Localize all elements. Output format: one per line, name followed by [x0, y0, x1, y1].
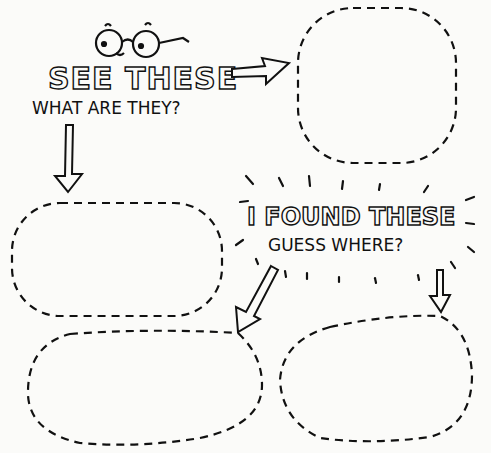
arrow-right-icon [232, 58, 289, 84]
bottom-left-box[interactable] [28, 331, 262, 445]
subheading-what-are-they: WHAT ARE THEY? [32, 98, 181, 118]
top-right-box[interactable] [298, 8, 456, 163]
worksheet-canvas: SEE THESE WHAT ARE THEY? I FOUND THESE G… [0, 0, 491, 453]
bottom-right-box[interactable] [280, 316, 472, 442]
arrow-down-left-icon [236, 266, 278, 332]
middle-left-box[interactable] [12, 203, 222, 316]
heading-see-these: SEE THESE [48, 61, 238, 96]
heading-i-found-these: I FOUND THESE [247, 203, 455, 231]
arrow-down-icon-2 [430, 270, 450, 312]
arrow-down-icon [55, 125, 82, 192]
subheading-guess-where: GUESS WHERE? [268, 235, 403, 255]
glasses-face-icon [96, 23, 189, 57]
